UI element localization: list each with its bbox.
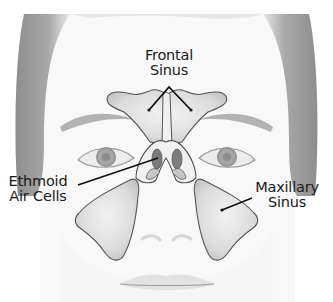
maxillary-label-line2: Sinus bbox=[244, 195, 330, 210]
sinus-anatomy-illustration bbox=[0, 0, 333, 302]
ethmoid-cell-right bbox=[172, 149, 182, 169]
maxillary-sinus-label: Maxillary Sinus bbox=[244, 180, 330, 210]
frontal-label-line1: Frontal bbox=[140, 48, 198, 63]
frontal-label-line2: Sinus bbox=[140, 63, 198, 78]
ethmoid-label-line1: Ethmoid bbox=[2, 174, 74, 189]
ethmoid-air-cells-label: Ethmoid Air Cells bbox=[2, 174, 74, 204]
maxillary-label-line1: Maxillary bbox=[244, 180, 330, 195]
ethmoid-label-line2: Air Cells bbox=[2, 189, 74, 204]
frontal-sinus-label: Frontal Sinus bbox=[140, 48, 198, 78]
